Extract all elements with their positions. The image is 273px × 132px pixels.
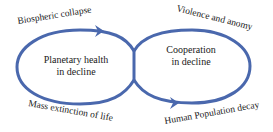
annotation-biospheric-collapse: Biospheric collapse [17, 4, 92, 26]
left-loop-label-line2: in decline [56, 66, 96, 77]
annotation-violence-anomy: Violence and anomy [176, 3, 254, 32]
figure-eight-diagram: Planetary health in decline Cooperation … [0, 0, 273, 132]
left-loop-label-line1: Planetary health [44, 54, 109, 65]
right-loop-label-line2: in decline [171, 56, 211, 67]
right-loop-label-line1: Cooperation [166, 44, 215, 55]
